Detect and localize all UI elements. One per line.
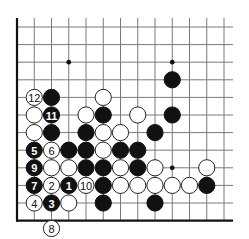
white-stone [26,107,42,123]
black-stone-icon [199,177,215,193]
white-stone-icon [164,177,180,193]
go-board-diagram: 121156972110438 [0,0,249,239]
white-stone: 12 [26,89,42,105]
white-stone-icon [147,160,163,176]
black-stone [130,160,146,176]
move-number-label: 4 [31,198,37,210]
move-number-label: 6 [48,145,54,157]
black-stone [95,177,111,193]
black-stone [147,125,163,141]
black-stone-icon [147,195,163,211]
white-stone [147,177,163,193]
black-stone-icon [95,195,111,211]
white-stone-icon [130,107,146,123]
white-stone-icon [147,177,163,193]
star-point-icon [170,60,175,65]
white-stone: 10 [78,177,94,193]
white-stone-icon [199,160,215,176]
white-stone-icon [95,142,111,158]
star-point-icon [170,165,175,170]
white-stone: 6 [43,142,59,158]
white-stone [164,177,180,193]
white-stone: 4 [26,195,42,211]
black-stone [78,160,94,176]
white-stone [112,125,128,141]
black-stone: 11 [43,107,59,123]
black-stone-icon [43,89,59,105]
black-stone: 5 [26,142,42,158]
black-stone [95,195,111,211]
white-stone [78,107,94,123]
white-stone [199,160,215,176]
move-number-label: 10 [80,180,92,192]
black-stone [199,177,215,193]
black-stone-icon [95,160,111,176]
black-stone [147,195,163,211]
white-stone [112,160,128,176]
white-stone-icon [95,89,111,105]
black-stone-icon [95,177,111,193]
white-stone: 8 [43,220,59,236]
black-stone [130,142,146,158]
white-stone-icon [112,177,128,193]
move-number-label: 11 [46,110,58,122]
black-stone [164,72,180,88]
black-stone [78,142,94,158]
white-stone [147,160,163,176]
black-stone [43,89,59,105]
white-stone [95,89,111,105]
black-stone [43,125,59,141]
black-stone-icon [95,107,111,123]
move-number-label: 12 [28,92,40,104]
white-stone: 2 [43,177,59,193]
white-stone [61,160,77,176]
black-stone-icon [78,142,94,158]
white-stone-icon [181,177,197,193]
star-point-icon [66,60,71,65]
black-stone [164,107,180,123]
white-stone-icon [43,160,59,176]
white-stone-icon [26,107,42,123]
white-stone [181,177,197,193]
black-stone [95,107,111,123]
black-stone: 3 [43,195,59,211]
black-stone-icon [164,107,180,123]
black-stone: 1 [61,177,77,193]
white-stone [61,195,77,211]
white-stone [112,177,128,193]
black-stone: 7 [26,177,42,193]
white-stone-icon [95,125,111,141]
black-stone-icon [43,125,59,141]
black-stone-icon [147,125,163,141]
white-stone-icon [61,195,77,211]
white-stone [95,142,111,158]
white-stone-icon [78,107,94,123]
black-stone-icon [78,125,94,141]
move-number-label: 9 [31,162,37,174]
white-stone-icon [112,160,128,176]
white-stone-icon [112,125,128,141]
white-stone-icon [26,125,42,141]
white-stone [26,125,42,141]
move-number-label: 1 [66,180,72,192]
move-number-label: 5 [31,145,37,157]
black-stone-icon [61,142,77,158]
white-stone [95,125,111,141]
black-stone-icon [130,160,146,176]
black-stone-icon [130,142,146,158]
white-stone [130,177,146,193]
black-stone-icon [164,72,180,88]
black-stone [61,142,77,158]
move-number-label: 3 [48,198,54,210]
move-number-label: 8 [48,223,54,235]
white-stone [130,107,146,123]
black-stone [78,125,94,141]
white-stone-icon [61,160,77,176]
move-number-label: 2 [48,180,54,192]
black-stone-icon [112,142,128,158]
black-stone: 9 [26,160,42,176]
black-stone [95,160,111,176]
black-stone-icon [78,160,94,176]
black-stone [112,142,128,158]
white-stone-icon [130,177,146,193]
